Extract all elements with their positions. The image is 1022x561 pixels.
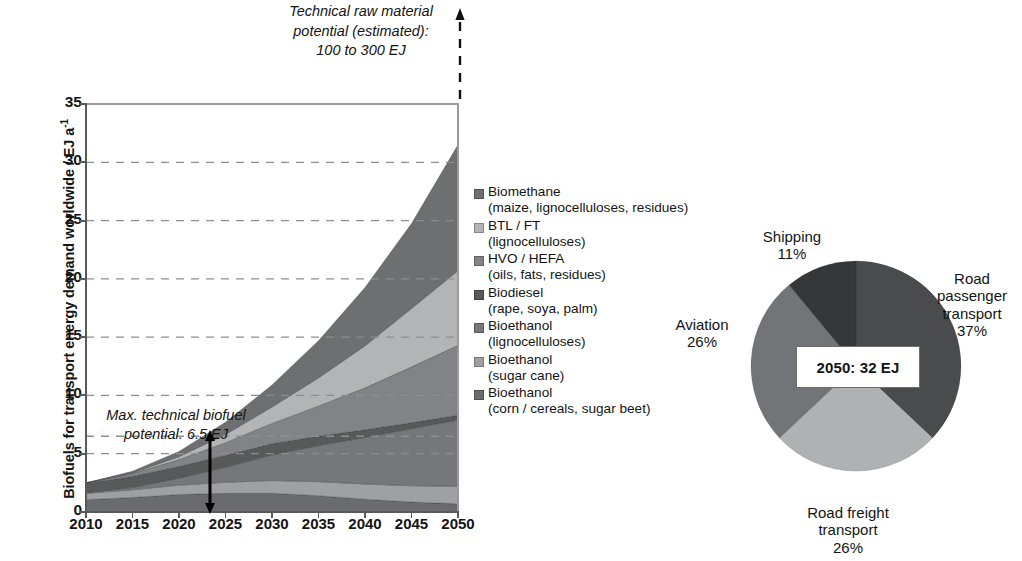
x-tick-mark-2050 [457, 511, 459, 518]
pie-center-label: 2050: 32 EJ [796, 346, 920, 388]
legend-swatch-icon-3 [474, 290, 484, 300]
legend-swatch-icon-1 [474, 223, 484, 233]
legend-label-detail-6: (corn / cereals, sugar beet) [488, 401, 650, 417]
y-tick-mark-5 [79, 453, 86, 455]
y-tick-label-15: 15 [48, 326, 82, 344]
raw-material-potential-annotation: Technical raw material potential (estima… [252, 2, 470, 61]
legend-label-4: Bioethanol(lignocelluloses) [488, 318, 585, 350]
pie-label-road-freight-pct: 26% [768, 539, 928, 556]
legend-label-detail-5: (sugar cane) [488, 368, 564, 384]
annotation-line-3: 100 to 300 EJ [252, 41, 470, 61]
y-tick-mark-35 [79, 103, 86, 105]
biofuel-potential-double-arrow-icon [204, 430, 216, 514]
series-legend: Biomethane(maize, lignocelluloses, resid… [474, 184, 699, 419]
x-tick-mark-2020 [178, 511, 180, 518]
legend-swatch-icon-6 [474, 390, 484, 400]
pie-label-road-passenger: Road passenger transport 37% [922, 270, 1022, 340]
pie-label-aviation-pct: 26% [648, 333, 756, 350]
legend-label-5: Bioethanol(sugar cane) [488, 352, 564, 384]
figure-root: Technical raw material potential (estima… [0, 0, 1022, 561]
pie-label-aviation-name: Aviation [675, 316, 728, 333]
biofuel-potential-annotation: Max. technical biofuel potential: 6.5 EJ [60, 406, 292, 444]
y-axis-tick-group: 05101520253035 [42, 0, 82, 561]
legend-swatch-icon-0 [474, 189, 484, 199]
plot-right-border [457, 103, 459, 513]
y-tick-mark-20 [79, 278, 86, 280]
pie-label-aviation: Aviation 26% [648, 316, 756, 351]
x-tick-mark-2040 [364, 511, 366, 518]
legend-label-3: Biodiesel(rape, soya, palm) [488, 285, 598, 317]
legend-label-name-3: Biodiesel [488, 285, 543, 300]
y-tick-label-10: 10 [48, 384, 82, 402]
pie-label-shipping: Shipping 11% [732, 228, 852, 263]
y-tick-mark-30 [79, 161, 86, 163]
x-tick-mark-2025 [225, 511, 227, 518]
y-tick-label-30: 30 [48, 151, 82, 169]
legend-item-3[interactable]: Biodiesel(rape, soya, palm) [474, 285, 699, 317]
legend-item-2[interactable]: HVO / HEFA(oils, fats, residues) [474, 251, 699, 283]
legend-label-name-4: Bioethanol [488, 318, 552, 333]
legend-label-0: Biomethane(maize, lignocelluloses, resid… [488, 184, 688, 216]
pie-label-road-passenger-pct: 37% [922, 322, 1022, 339]
legend-swatch-icon-2 [474, 256, 484, 266]
legend-label-2: HVO / HEFA(oils, fats, residues) [488, 251, 606, 283]
pie-label-shipping-name: Shipping [763, 228, 821, 245]
biofuel-annotation-line-1: Max. technical biofuel [60, 406, 292, 425]
legend-item-1[interactable]: BTL / FT(lignocelluloses) [474, 218, 699, 250]
y-tick-label-35: 35 [48, 93, 82, 111]
x-tick-mark-2030 [271, 511, 273, 518]
biofuel-annotation-line-2: potential: 6.5 EJ [60, 425, 292, 444]
plot-top-border [86, 103, 458, 105]
pie-label-road-freight-l1: Road freight [807, 504, 889, 521]
legend-swatch-icon-4 [474, 323, 484, 333]
pie-label-road-freight: Road freight transport 26% [768, 504, 928, 556]
y-tick-mark-25 [79, 220, 86, 222]
x-tick-mark-2045 [411, 511, 413, 518]
legend-label-name-0: Biomethane [488, 184, 561, 199]
stacked-area-plot [86, 104, 458, 512]
y-axis-line [85, 103, 87, 513]
legend-label-detail-0: (maize, lignocelluloses, residues) [488, 200, 688, 216]
stacked-area-svg [86, 104, 458, 512]
legend-swatch-icon-5 [474, 357, 484, 367]
pie-label-road-passenger-l2: passenger [937, 287, 1007, 304]
legend-label-1: BTL / FT(lignocelluloses) [488, 218, 585, 250]
legend-item-5[interactable]: Bioethanol(sugar cane) [474, 352, 699, 384]
legend-label-detail-3: (rape, soya, palm) [488, 301, 598, 317]
y-tick-label-5: 5 [48, 443, 82, 461]
legend-label-name-1: BTL / FT [488, 218, 540, 233]
legend-label-name-5: Bioethanol [488, 352, 552, 367]
legend-label-detail-1: (lignocelluloses) [488, 234, 585, 250]
legend-label-detail-2: (oils, fats, residues) [488, 267, 606, 283]
y-tick-label-25: 25 [48, 210, 82, 228]
legend-label-name-2: HVO / HEFA [488, 251, 564, 266]
legend-item-0[interactable]: Biomethane(maize, lignocelluloses, resid… [474, 184, 699, 216]
pie-label-road-freight-l2: transport [818, 521, 877, 538]
pie-chart-block: 2050: 32 EJ Shipping 11% Road passenger … [690, 228, 1022, 561]
legend-label-6: Bioethanol(corn / cereals, sugar beet) [488, 385, 650, 417]
y-tick-mark-10 [79, 394, 86, 396]
pie-label-road-passenger-l3: transport [942, 305, 1001, 322]
annotation-line-2: potential (estimated): [252, 22, 470, 42]
y-tick-mark-15 [79, 336, 86, 338]
annotation-line-1: Technical raw material [252, 2, 470, 22]
y-tick-label-20: 20 [48, 268, 82, 286]
x-tick-mark-2015 [132, 511, 134, 518]
raw-material-potential-arrow-icon [455, 6, 465, 100]
legend-item-6[interactable]: Bioethanol(corn / cereals, sugar beet) [474, 385, 699, 417]
legend-label-name-6: Bioethanol [488, 385, 552, 400]
pie-label-road-passenger-l1: Road [954, 270, 990, 287]
x-tick-mark-2035 [318, 511, 320, 518]
x-tick-mark-2010 [85, 511, 87, 518]
legend-label-detail-4: (lignocelluloses) [488, 334, 585, 350]
pie-label-shipping-pct: 11% [732, 245, 852, 262]
